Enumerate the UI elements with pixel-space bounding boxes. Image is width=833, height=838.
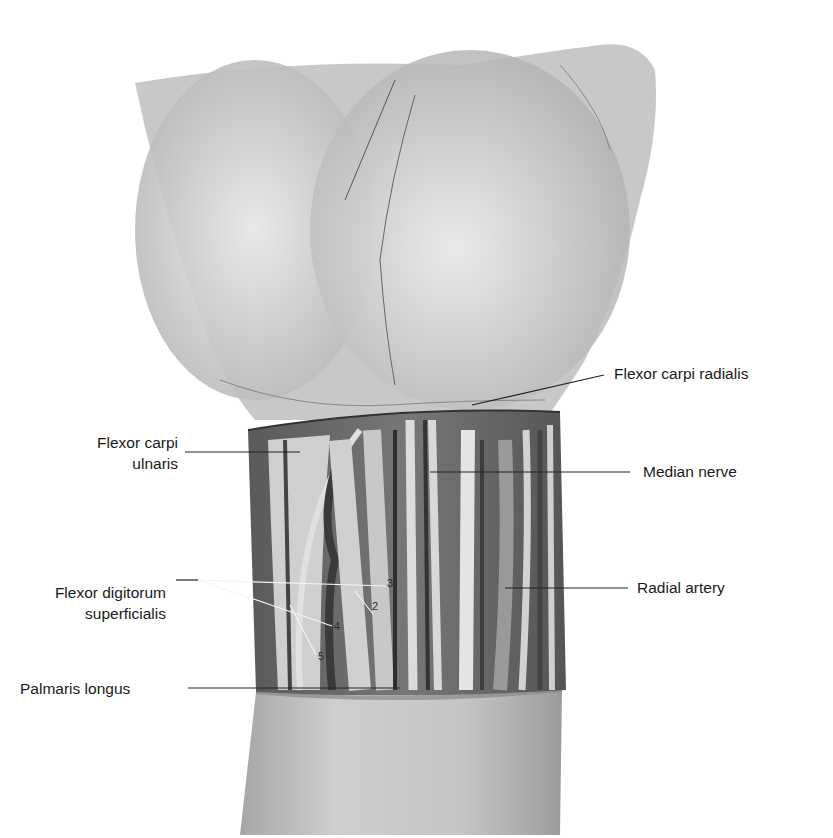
- label-flexor-carpi-ulnaris-line1: Flexor carpi: [66, 433, 178, 452]
- label-flexor-digitorum-line2: superficialis: [10, 604, 166, 623]
- forearm-skin: [240, 690, 562, 835]
- palm-skin: [135, 44, 656, 420]
- label-flexor-carpi-radialis: Flexor carpi radialis: [614, 364, 748, 383]
- label-palmaris-longus: Palmaris longus: [20, 679, 130, 698]
- tendon-number-4: 4: [334, 620, 340, 632]
- label-flexor-carpi-ulnaris-line2: ulnaris: [66, 454, 178, 473]
- label-flexor-digitorum-line1: Flexor digitorum: [10, 583, 166, 602]
- tendon-number-5: 5: [318, 650, 324, 662]
- dissection-window: [248, 410, 566, 695]
- label-median-nerve: Median nerve: [643, 462, 737, 481]
- tendon-number-2: 2: [372, 600, 378, 612]
- anatomy-illustration: 3 2 4 5: [0, 0, 833, 838]
- tendon-number-3: 3: [387, 577, 393, 589]
- label-radial-artery: Radial artery: [637, 578, 725, 597]
